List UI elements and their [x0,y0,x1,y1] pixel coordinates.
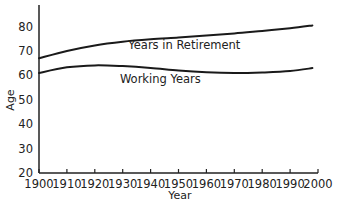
x-tick-label: 1970 [220,177,249,191]
retirement-label: Years in Retirement [127,38,241,52]
y-tick-label: 70 [18,44,33,58]
line-chart: 20304050607080 1900191019201930194019501… [0,0,340,211]
x-tick-label: 1990 [275,177,304,191]
x-tick-label: 1910 [52,177,81,191]
y-tick-label: 40 [18,117,33,131]
x-tick-label: 1930 [108,177,137,191]
x-axis: 1900191019201930194019501960197019801990… [24,169,332,191]
x-axis-title: Year [167,189,192,202]
x-tick-label: 1920 [80,177,109,191]
x-tick-label: 1900 [24,177,53,191]
working-years-label: Working Years [120,72,201,86]
x-tick-label: 1940 [136,177,165,191]
plot-lines: Years in RetirementWorking Years [39,25,312,85]
x-tick-label: 2000 [303,177,332,191]
x-tick-label: 1960 [192,177,221,191]
y-tick-label: 60 [18,68,33,82]
y-axis: 20304050607080 [18,5,39,180]
y-tick-label: 50 [18,93,33,107]
y-tick-label: 30 [18,142,33,156]
y-tick-label: 80 [18,20,33,34]
x-tick-label: 1980 [248,177,277,191]
y-axis-title: Age [4,89,17,111]
